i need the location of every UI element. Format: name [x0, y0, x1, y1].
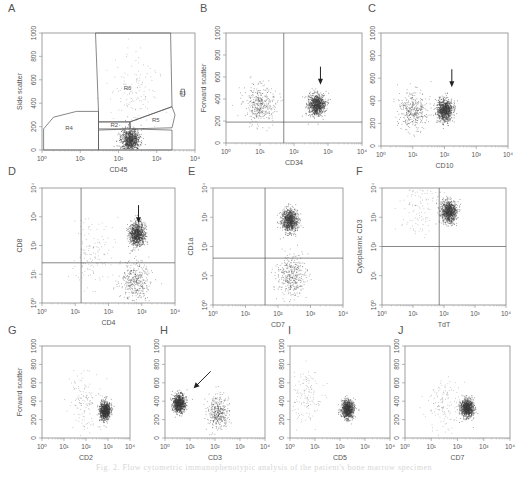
data-point [288, 283, 289, 284]
data-point [436, 100, 437, 101]
data-point [282, 227, 283, 228]
data-point [256, 117, 257, 118]
data-point [456, 402, 457, 403]
data-point [294, 268, 295, 269]
data-point [109, 414, 110, 415]
data-point [451, 225, 452, 226]
data-point [313, 104, 314, 105]
data-point [291, 220, 292, 221]
population-cd2- [97, 396, 115, 427]
data-point [425, 108, 426, 109]
data-point [298, 279, 299, 280]
y-tick-label: 10⁴ [30, 183, 37, 193]
data-point [113, 118, 114, 119]
data-point [142, 290, 143, 291]
x-tick-label: 10⁴ [125, 443, 135, 450]
data-point [277, 227, 278, 228]
data-point [103, 406, 104, 407]
data-point [88, 233, 89, 234]
data-point [444, 418, 445, 419]
data-point [454, 420, 455, 421]
data-point [113, 287, 114, 288]
data-point [130, 238, 131, 239]
data-point [108, 405, 109, 406]
data-point [458, 397, 459, 398]
data-point [139, 80, 140, 81]
data-point [346, 400, 347, 401]
data-point [324, 111, 325, 112]
data-point [411, 94, 412, 95]
data-point [143, 293, 144, 294]
data-point [204, 404, 205, 405]
data-point [89, 392, 90, 393]
data-point [224, 410, 225, 411]
data-point [89, 248, 90, 249]
data-point [181, 410, 182, 411]
data-point [271, 114, 272, 115]
data-point [295, 294, 296, 295]
data-point [135, 144, 136, 145]
data-point [176, 400, 177, 401]
y-tick-label: 0 [369, 144, 376, 148]
data-point [312, 100, 313, 101]
scatter-dots [420, 376, 479, 435]
data-point [131, 242, 132, 243]
data-point [420, 228, 421, 229]
data-point [443, 207, 444, 208]
data-point [225, 424, 226, 425]
data-point [213, 401, 214, 402]
data-point [139, 276, 140, 277]
data-point [98, 394, 99, 395]
data-point [319, 101, 320, 102]
data-point [133, 272, 134, 273]
data-point [311, 103, 312, 104]
data-point [351, 424, 352, 425]
data-point [228, 398, 229, 399]
data-point [86, 246, 87, 247]
data-point [261, 109, 262, 110]
data-point [443, 214, 444, 215]
data-point [259, 105, 260, 106]
data-point [106, 419, 107, 420]
data-point [104, 409, 105, 410]
data-point [406, 99, 407, 100]
data-point [125, 133, 126, 134]
data-point [180, 405, 181, 406]
data-point [143, 280, 144, 281]
data-point [403, 103, 404, 104]
data-point [450, 206, 451, 207]
data-point [420, 131, 421, 132]
data-point [353, 413, 354, 414]
data-point [314, 392, 315, 393]
data-point [467, 414, 468, 415]
data-point [255, 100, 256, 101]
y-tick-label: 10² [370, 241, 377, 251]
data-point [439, 388, 440, 389]
data-point [102, 417, 103, 418]
y-tick-label: 10⁰ [370, 300, 377, 310]
data-point [407, 111, 408, 112]
data-point [344, 409, 345, 410]
data-point [109, 404, 110, 405]
data-point [315, 381, 316, 382]
data-point [225, 422, 226, 423]
data-point [314, 104, 315, 105]
data-point [186, 409, 187, 410]
data-point [147, 288, 148, 289]
data-point [424, 115, 425, 116]
data-point [135, 142, 136, 143]
data-point [278, 281, 279, 282]
data-point [319, 98, 320, 99]
data-point [256, 97, 257, 98]
data-point [263, 116, 264, 117]
data-point [427, 203, 428, 204]
data-point [438, 102, 439, 103]
data-point [142, 291, 143, 292]
data-point [212, 417, 213, 418]
data-point [442, 105, 443, 106]
data-point [178, 410, 179, 411]
data-point [182, 400, 183, 401]
data-point [284, 213, 285, 214]
data-point [147, 108, 148, 109]
data-point [300, 280, 301, 281]
